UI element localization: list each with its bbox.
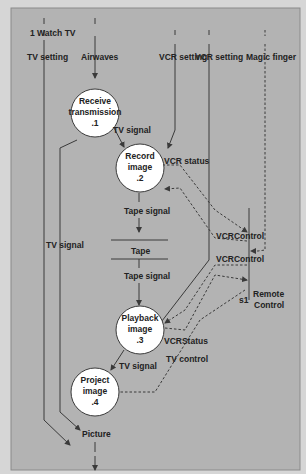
- entity-remote-line2: Control: [254, 300, 284, 310]
- label-picture: Picture: [82, 429, 111, 439]
- process-1-number: .1: [91, 118, 98, 128]
- process-4-number: .4: [91, 397, 98, 407]
- data-store-tape: Tape: [131, 246, 150, 256]
- process-2-number: .2: [136, 173, 143, 183]
- entity-remote-line1: Remote: [253, 289, 284, 299]
- label-tape-signal-in: Tape signal: [124, 206, 170, 216]
- label-airwaves: Airwaves: [81, 52, 119, 62]
- process-record-image: Record image .2: [116, 144, 164, 192]
- process-project-image: Project image .4: [71, 368, 119, 416]
- process-4-line1: Project: [81, 375, 110, 385]
- process-playback-image: Playback image .3: [116, 306, 164, 354]
- diagram-title: 1 Watch TV: [30, 28, 76, 38]
- dfd-canvas: Receive transmission .1 Record image .2 …: [0, 0, 306, 474]
- label-vcr-control-1: VCRControl: [216, 231, 264, 241]
- process-2-line2: image: [128, 162, 153, 172]
- process-1-line2: transmission: [69, 107, 122, 117]
- process-1-line1: Receive: [79, 96, 111, 106]
- entity-remote-id: s1: [239, 295, 249, 305]
- label-tape-signal-out: Tape signal: [124, 271, 170, 281]
- label-vcr-setting-2: VCR setting: [195, 52, 243, 62]
- label-tv-signal-left: TV signal: [46, 240, 84, 250]
- label-vcr-status-3: VCRStatus: [164, 336, 208, 346]
- label-magic-finger: Magic finger: [246, 52, 297, 62]
- label-tv-control: TV control: [166, 354, 208, 364]
- label-tv-signal-3-4: TV signal: [119, 361, 157, 371]
- label-tv-setting: TV setting: [27, 52, 68, 62]
- label-vcr-control-2: VCRControl: [216, 254, 264, 264]
- label-vcr-status: VCR status: [164, 156, 210, 166]
- process-3-number: .3: [136, 335, 143, 345]
- process-3-line1: Playback: [122, 313, 159, 323]
- process-2-line1: Record: [125, 151, 154, 161]
- process-4-line2: image: [83, 386, 108, 396]
- process-3-line2: image: [128, 324, 153, 334]
- label-tv-signal-1-2: TV signal: [113, 125, 151, 135]
